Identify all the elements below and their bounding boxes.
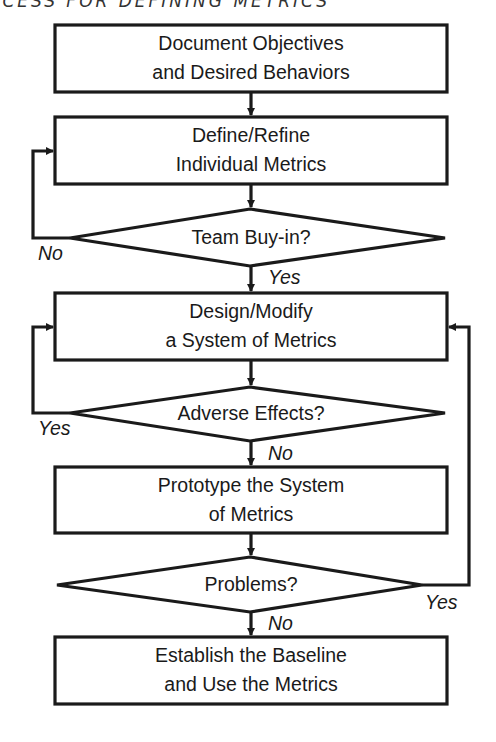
decision-diamond-adverse-effects[interactable] — [70, 387, 445, 441]
edge-label-adverse-yes: Yes — [38, 417, 71, 440]
edge-label-team-no: No — [38, 242, 63, 265]
edge-label-team-yes: Yes — [268, 266, 301, 289]
edge-label-problems-no: No — [268, 612, 293, 635]
process-box-prototype[interactable] — [55, 467, 447, 533]
process-box-document-objectives[interactable] — [55, 25, 447, 92]
flowchart-canvas — [0, 0, 496, 742]
decision-diamond-problems[interactable] — [57, 557, 422, 612]
edge-label-problems-yes: Yes — [425, 591, 458, 614]
decision-diamond-team-buy-in[interactable] — [70, 209, 445, 266]
process-box-establish-baseline[interactable] — [55, 637, 447, 704]
process-box-design-modify[interactable] — [55, 293, 447, 360]
process-box-define-refine[interactable] — [55, 117, 447, 184]
loop-problems-yes-to-design — [422, 327, 469, 585]
edge-label-adverse-no: No — [268, 442, 293, 465]
